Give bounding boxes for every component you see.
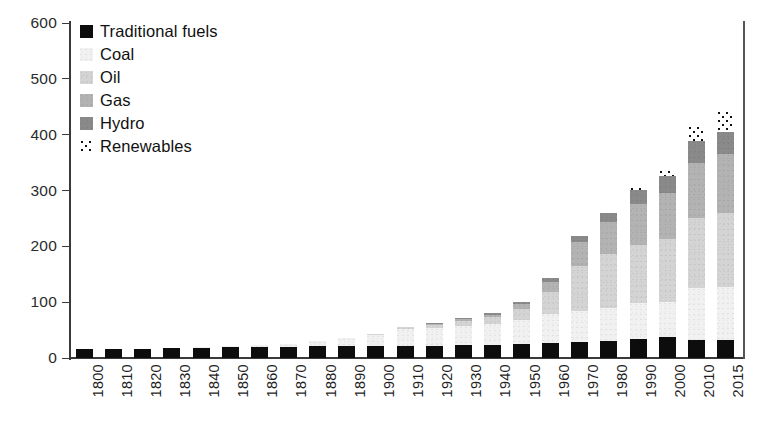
bar-segment-gas	[484, 315, 501, 317]
legend-item-gas[interactable]: Gas	[80, 90, 218, 111]
bar-segment-coal	[426, 328, 443, 346]
bar-segment-coal	[513, 320, 530, 344]
bar-1950[interactable]	[513, 23, 530, 358]
x-axis-label-1810: 1810	[120, 364, 135, 424]
chart-legend: Traditional fuelsCoalOilGasHydroRenewabl…	[80, 21, 218, 157]
bar-1850[interactable]	[222, 23, 239, 358]
bar-segment-traditional-fuels	[163, 348, 180, 358]
x-axis-label-1980: 1980	[615, 364, 630, 424]
bar-segment-coal	[659, 302, 676, 337]
legend-swatch-gas-icon	[80, 94, 93, 107]
bar-segment-oil	[513, 309, 530, 320]
bar-segment-gas	[630, 204, 647, 244]
bar-1980[interactable]	[600, 23, 617, 358]
y-axis-tick	[62, 302, 70, 303]
bar-segment-traditional-fuels	[367, 346, 384, 358]
bar-segment-hydro	[571, 236, 588, 243]
bar-segment-traditional-fuels	[717, 340, 734, 358]
bar-1940[interactable]	[484, 23, 501, 358]
bar-segment-hydro	[630, 190, 647, 205]
bar-segment-traditional-fuels	[105, 349, 122, 358]
bar-segment-traditional-fuels	[571, 342, 588, 358]
legend-item-label: Renewables	[100, 138, 192, 155]
x-axis-label-1860: 1860	[265, 364, 280, 424]
x-axis-label-1970: 1970	[586, 364, 601, 424]
bar-segment-coal	[630, 303, 647, 339]
bar-1910[interactable]	[397, 23, 414, 358]
y-axis-label: 400	[31, 127, 57, 143]
plot-right-border	[743, 21, 745, 359]
y-axis-tick	[62, 23, 70, 24]
bar-segment-renewables	[717, 111, 734, 132]
bar-1880[interactable]	[309, 23, 326, 358]
energy-consumption-chart: 0100200300400500600 18001810182018301840…	[0, 0, 767, 426]
bar-segment-oil	[455, 321, 472, 327]
bar-segment-gas	[659, 193, 676, 239]
bar-segment-oil	[542, 292, 559, 314]
bar-segment-renewables	[688, 126, 705, 142]
bar-1920[interactable]	[426, 23, 443, 358]
bar-segment-coal	[251, 345, 268, 347]
bar-segment-coal	[397, 329, 414, 346]
bar-2010[interactable]	[688, 23, 705, 358]
bar-1930[interactable]	[455, 23, 472, 358]
y-axis-tick	[62, 190, 70, 191]
bar-segment-gas	[600, 222, 617, 254]
bar-segment-hydro	[688, 141, 705, 162]
legend-item-hydro[interactable]: Hydro	[80, 113, 218, 134]
bar-1870[interactable]	[280, 23, 297, 358]
bar-segment-coal	[222, 346, 239, 347]
bar-2000[interactable]	[659, 23, 676, 358]
bar-segment-traditional-fuels	[134, 349, 151, 358]
legend-swatch-renewables-icon	[80, 140, 93, 153]
bar-segment-gas	[717, 154, 734, 213]
bar-segment-traditional-fuels	[513, 344, 530, 358]
y-axis-label: 600	[31, 15, 57, 31]
bar-segment-coal	[600, 308, 617, 342]
bar-segment-oil	[426, 325, 443, 328]
legend-item-label: Hydro	[100, 115, 145, 132]
bar-1860[interactable]	[251, 23, 268, 358]
legend-item-traditional-fuels[interactable]: Traditional fuels	[80, 21, 218, 42]
bar-segment-gas	[542, 282, 559, 291]
x-axis-label-1800: 1800	[91, 364, 106, 424]
legend-item-coal[interactable]: Coal	[80, 44, 218, 65]
x-axis-label-1960: 1960	[557, 364, 572, 424]
legend-item-renewables[interactable]: Renewables	[80, 136, 218, 157]
bar-2015[interactable]	[717, 23, 734, 358]
bar-segment-coal	[688, 288, 705, 339]
bar-segment-traditional-fuels	[542, 343, 559, 358]
legend-swatch-coal-icon	[80, 48, 93, 61]
bar-segment-gas	[513, 304, 530, 308]
bar-segment-traditional-fuels	[426, 346, 443, 358]
bar-segment-hydro	[513, 302, 530, 304]
bar-segment-traditional-fuels	[280, 347, 297, 358]
legend-item-label: Coal	[100, 46, 134, 63]
x-axis-label-1870: 1870	[294, 364, 309, 424]
bar-segment-oil	[659, 239, 676, 302]
x-axis-label-2000: 2000	[673, 364, 688, 424]
x-axis-label-2015: 2015	[731, 364, 746, 424]
bar-segment-coal	[717, 287, 734, 340]
bar-1960[interactable]	[542, 23, 559, 358]
bar-segment-traditional-fuels	[222, 347, 239, 358]
x-axis-label-1830: 1830	[178, 364, 193, 424]
legend-item-oil[interactable]: Oil	[80, 67, 218, 88]
y-axis-label: 200	[31, 238, 57, 254]
bar-1990[interactable]	[630, 23, 647, 358]
x-axis-label-1900: 1900	[382, 364, 397, 424]
x-axis-label-2010: 2010	[702, 364, 717, 424]
bar-segment-coal	[193, 347, 210, 348]
bar-segment-coal	[309, 341, 326, 347]
y-axis-label: 100	[31, 294, 57, 310]
bar-1970[interactable]	[571, 23, 588, 358]
bar-segment-gas	[455, 319, 472, 320]
bar-segment-traditional-fuels	[76, 349, 93, 358]
bar-1900[interactable]	[367, 23, 384, 358]
bar-segment-traditional-fuels	[455, 345, 472, 358]
bar-segment-coal	[484, 324, 501, 345]
x-axis-label-1840: 1840	[207, 364, 222, 424]
x-axis-label-1950: 1950	[528, 364, 543, 424]
x-axis-label-1880: 1880	[324, 364, 339, 424]
bar-1890[interactable]	[338, 23, 355, 358]
